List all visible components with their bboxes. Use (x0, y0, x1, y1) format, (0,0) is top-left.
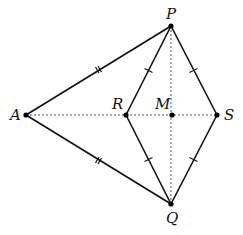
label-Q: Q (166, 209, 178, 227)
label-M: M (154, 95, 171, 113)
point-S (214, 112, 219, 117)
point-A (23, 112, 28, 117)
point-M (169, 112, 174, 117)
geometry-diagram: P A R M S Q (0, 0, 243, 235)
point-Q (168, 201, 173, 206)
point-P (168, 23, 173, 28)
diagram-svg: P A R M S Q (0, 0, 243, 235)
label-P: P (165, 5, 177, 23)
label-A: A (8, 106, 21, 124)
point-R (123, 112, 128, 117)
label-S: S (224, 106, 234, 124)
label-R: R (111, 95, 123, 113)
